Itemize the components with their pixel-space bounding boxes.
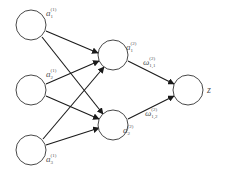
- weight-sup: (2): [149, 56, 155, 61]
- label-sub: 3: [51, 160, 54, 165]
- label-sup: (1): [51, 7, 57, 12]
- label-sup: (2): [128, 124, 134, 129]
- label-symbol: z: [207, 84, 211, 95]
- edge-a3-to-h2: [46, 128, 99, 145]
- label-weight-1-2: ω(2)1,2: [145, 109, 161, 119]
- input-node-1: [16, 10, 46, 40]
- input-node-3: [16, 135, 46, 165]
- label-a3-1: a(1)3: [46, 155, 59, 165]
- label-a2-1: a(1)2: [46, 70, 59, 80]
- neural-network-diagram: [0, 0, 226, 176]
- label-weight-1-1: ω(2)1,1: [143, 58, 159, 68]
- label-sub: 1: [131, 48, 134, 53]
- edge-a1-to-h1: [46, 31, 98, 53]
- label-sub: 1: [51, 14, 54, 19]
- weight-sub: 1,2: [151, 114, 157, 119]
- label-a1-1: a(1)1: [46, 9, 59, 19]
- label-sub: 2: [128, 131, 131, 136]
- label-a1-2: a(2)1: [126, 43, 139, 53]
- label-sup: (1): [51, 68, 57, 73]
- hidden-node-1: [98, 40, 128, 70]
- weight-sub: 1,1: [149, 63, 155, 68]
- label-sub: 2: [51, 75, 54, 80]
- output-node: [173, 75, 203, 105]
- label-z: z: [207, 85, 211, 95]
- label-sup: (2): [131, 41, 137, 46]
- input-node-2: [16, 75, 46, 105]
- weight-sup: (2): [151, 107, 157, 112]
- label-sup: (1): [51, 153, 57, 158]
- label-a2-2: a(2)2: [123, 126, 136, 136]
